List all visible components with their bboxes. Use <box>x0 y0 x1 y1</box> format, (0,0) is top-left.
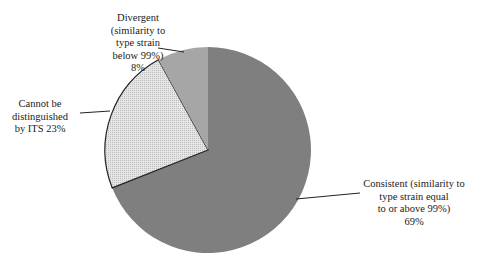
data-label-divergent: Divergent (similarity to type strain bel… <box>78 12 198 75</box>
data-label-cannot-be-distinguished: Cannot be distinguished by ITS 23% <box>0 98 80 136</box>
pie-slices <box>105 47 311 253</box>
leader-line-cannot <box>80 111 110 113</box>
data-label-consistent: Consistent (similarity to type strain eq… <box>348 178 480 228</box>
